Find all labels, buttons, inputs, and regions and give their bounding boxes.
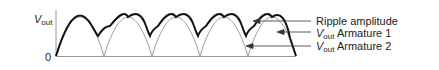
arrow-head-arm1 — [277, 30, 284, 35]
armature-2-curves — [104, 17, 248, 56]
arrow-head-arm2 — [246, 44, 253, 49]
legend-armature-2: Vout Armature 2 — [316, 40, 391, 56]
legend-ripple-amplitude: Ripple amplitude — [316, 15, 398, 27]
y-axis-label-sub: out — [41, 18, 52, 27]
origin-label: 0 — [45, 51, 51, 63]
legend-ripple-text: Ripple amplitude — [316, 15, 398, 27]
legend-arm1-text: Armature 1 — [337, 27, 391, 39]
y-axis-label: Vout — [34, 13, 52, 29]
legend-arm2-sub: out — [323, 45, 334, 54]
legend-arm2-text: Armature 2 — [337, 40, 391, 52]
